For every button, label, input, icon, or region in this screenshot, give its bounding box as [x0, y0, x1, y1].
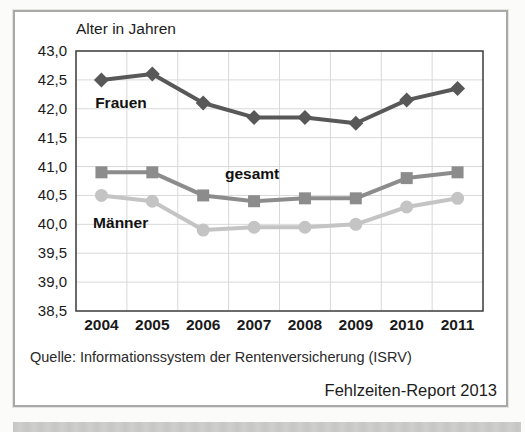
marker-diamond-frauen: [450, 81, 465, 96]
x-tick-label: 2011: [441, 316, 475, 333]
x-tick-label: 2006: [186, 316, 221, 333]
marker-circle-maenner: [146, 195, 159, 208]
y-tick-label: 39,0: [38, 273, 67, 290]
marker-diamond-frauen: [247, 110, 262, 125]
marker-square-gesamt: [95, 166, 107, 178]
marker-square-gesamt: [452, 166, 464, 178]
report-credit: Fehlzeiten-Report 2013: [325, 381, 497, 400]
y-tick-label: 40,0: [38, 215, 67, 232]
y-tick-label: 41,0: [38, 158, 67, 175]
x-tick-label: 2009: [339, 316, 374, 333]
marker-circle-maenner: [400, 201, 413, 214]
figure-card: Alter in Jahren 43,042,542,041,541,040,5…: [13, 10, 508, 407]
marker-square-gesamt: [248, 195, 260, 207]
source-note: Quelle: Informationssystem der Rentenver…: [30, 349, 412, 365]
marker-circle-maenner: [95, 189, 108, 202]
marker-circle-maenner: [298, 221, 311, 234]
scanned-figure-page: Alter in Jahren 43,042,542,041,541,040,5…: [0, 0, 525, 432]
x-tick-label: 2004: [84, 316, 119, 333]
x-tick-label: 2010: [389, 316, 423, 333]
line-chart: Alter in Jahren 43,042,542,041,541,040,5…: [15, 12, 506, 352]
series-label-maenner: Männer: [93, 214, 148, 232]
y-tick-label: 41,5: [38, 129, 67, 146]
marker-square-gesamt: [299, 192, 311, 204]
y-tick-label: 42,5: [38, 71, 67, 88]
marker-circle-maenner: [349, 218, 362, 231]
marker-diamond-frauen: [399, 93, 414, 108]
series-label-gesamt: gesamt: [225, 165, 279, 183]
marker-square-gesamt: [350, 192, 362, 204]
marker-square-gesamt: [197, 189, 209, 201]
x-tick-label: 2008: [288, 316, 323, 333]
page-bottom-strip: [13, 422, 521, 432]
marker-diamond-frauen: [297, 110, 312, 125]
x-tick-label: 2007: [237, 316, 271, 333]
marker-square-gesamt: [146, 166, 158, 178]
y-tick-label: 38,5: [38, 302, 67, 319]
marker-circle-maenner: [197, 224, 210, 237]
x-tick-label: 2005: [135, 316, 170, 333]
series-label-frauen: Frauen: [95, 94, 147, 112]
y-tick-label: 42,0: [38, 100, 67, 117]
marker-square-gesamt: [401, 172, 413, 184]
y-tick-label: 39,5: [38, 244, 67, 261]
marker-circle-maenner: [248, 221, 261, 234]
marker-diamond-frauen: [348, 116, 363, 131]
y-tick-label: 40,5: [38, 186, 67, 203]
marker-diamond-frauen: [94, 72, 109, 87]
marker-circle-maenner: [451, 192, 464, 205]
y-tick-label: 43,0: [38, 42, 67, 59]
